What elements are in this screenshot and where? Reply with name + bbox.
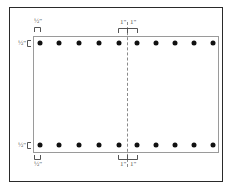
bottom-left-bracket [35,155,41,160]
bottom-center-right-label: 1" [130,161,136,168]
left-bottom-offset-label: ½" [18,142,26,149]
bottom-center-left-label: 1" [120,161,126,168]
bottom-center-bracket [119,155,138,160]
top-center-right-label: 1" [130,19,136,26]
left-top-bracket [28,41,32,47]
left-top-offset-label: ½" [18,40,26,47]
top-left-offset-label: ½" [34,18,42,25]
left-bottom-bracket [28,143,32,149]
bottom-left-offset-label: ½" [34,161,42,168]
top-center-left-label: 1" [120,19,126,26]
top-center-bracket [119,29,138,34]
top-left-bracket [35,28,41,33]
